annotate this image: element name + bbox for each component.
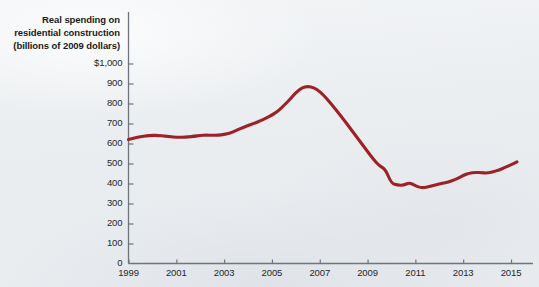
series-line-real-residential-construction-spending xyxy=(129,87,517,188)
x-axis-tick-label: 2005 xyxy=(252,267,292,278)
x-axis-tick-label: 2013 xyxy=(443,267,483,278)
x-axis-tick-label: 2009 xyxy=(348,267,388,278)
y-axis-tick-label: 400 xyxy=(79,177,123,188)
x-axis-tick-label: 2011 xyxy=(395,267,435,278)
y-axis-tick-label: 900 xyxy=(79,77,123,88)
y-axis-tick-label: 700 xyxy=(79,117,123,128)
y-axis-ticks xyxy=(129,64,134,244)
x-axis-tick-label: 2007 xyxy=(300,267,340,278)
y-axis-tick-label: 100 xyxy=(79,237,123,248)
y-axis-tick-label: $1,000 xyxy=(79,57,123,68)
y-axis-tick-label: 800 xyxy=(79,97,123,108)
y-axis-tick-label: 300 xyxy=(79,197,123,208)
x-axis-tick-label: 2003 xyxy=(204,267,244,278)
y-axis-tick-label: 500 xyxy=(79,157,123,168)
residential-construction-line-chart: Real spending on residential constructio… xyxy=(0,0,539,287)
x-axis-tick-label: 2001 xyxy=(156,267,196,278)
y-axis-tick-label: 200 xyxy=(79,217,123,228)
x-axis-tick-label: 2015 xyxy=(491,267,531,278)
y-axis-tick-label: 600 xyxy=(79,137,123,148)
x-axis-tick-label: 1999 xyxy=(109,267,149,278)
